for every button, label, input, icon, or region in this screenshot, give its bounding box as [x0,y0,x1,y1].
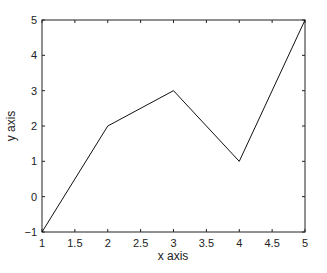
line-chart: 11.522.533.544.55 −1012345 x axis y axis [0,0,327,273]
y-tick-label: 2 [31,120,37,132]
x-tick-label: 3.5 [199,237,214,249]
y-axis-ticks: −1012345 [24,14,305,238]
x-tick-label: 5 [302,237,308,249]
x-tick-label: 2 [105,237,111,249]
x-tick-label: 4 [236,237,242,249]
y-tick-label: 3 [31,85,37,97]
y-axis-label: y axis [4,111,18,142]
x-tick-label: 4.5 [264,237,279,249]
y-tick-label: 0 [31,191,37,203]
x-axis-ticks: 11.522.533.544.55 [39,20,308,249]
x-tick-label: 2.5 [133,237,148,249]
y-tick-label: 4 [31,49,37,61]
data-line [42,20,305,232]
y-tick-label: −1 [24,226,37,238]
axes-box [42,20,305,232]
x-tick-label: 1.5 [67,237,82,249]
x-axis-label: x axis [158,249,189,263]
y-tick-label: 1 [31,155,37,167]
x-tick-label: 3 [170,237,176,249]
x-tick-label: 1 [39,237,45,249]
y-tick-label: 5 [31,14,37,26]
